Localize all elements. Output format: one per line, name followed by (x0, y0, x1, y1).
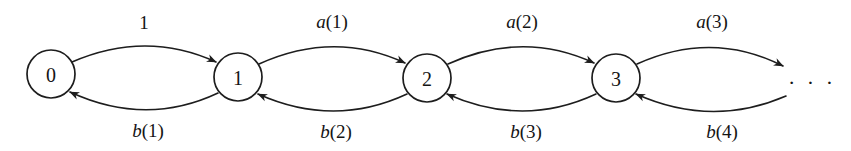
edge-3-to-2-path (447, 94, 596, 111)
edge-3-to-next-path (637, 47, 783, 66)
edge-1-to-2-path (259, 47, 405, 64)
state-node-0[interactable]: 0 (27, 50, 75, 98)
edge-label-3-to-2-rest: (3) (520, 121, 542, 143)
edge-2-to-1-path (258, 94, 407, 111)
state-node-3-label: 3 (611, 68, 621, 90)
diagram-canvas: 0 1 2 3 · · · 1 b(1) a(1) b(2) (0, 0, 851, 151)
edge-label-1-to-0-var: b (132, 120, 142, 141)
edge-label-1-to-2-var: a (316, 11, 326, 32)
edge-label-3-to-next-var: a (696, 11, 706, 32)
edge-label-next-to-3: b(4) (706, 121, 738, 143)
state-node-1[interactable]: 1 (214, 53, 262, 101)
edge-2-to-3-path (448, 47, 594, 64)
edge-label-2-to-3: a(2) (506, 11, 538, 33)
edge-label-3-to-next: a(3) (696, 11, 728, 33)
edge-0-to-1-path (72, 46, 216, 62)
edge-label-0-to-1-rest: 1 (139, 12, 149, 33)
edge-label-2-to-1: b(2) (320, 121, 352, 143)
edge-label-2-to-3-rest: (2) (516, 11, 538, 33)
edge-label-next-to-3-rest: (4) (716, 121, 738, 143)
edge-label-3-to-2-var: b (510, 121, 520, 142)
state-node-1-label: 1 (233, 67, 243, 89)
state-node-0-label: 0 (46, 64, 56, 86)
state-node-2[interactable]: 2 (403, 54, 451, 102)
edge-label-2-to-1-var: b (320, 121, 330, 142)
state-node-2-label: 2 (422, 68, 432, 90)
edge-label-1-to-2: a(1) (316, 11, 348, 33)
state-node-3[interactable]: 3 (592, 54, 640, 102)
edge-next-to-3-path (636, 94, 786, 112)
continuation-ellipsis: · · · (788, 70, 836, 95)
edge-label-0-to-1: 1 (139, 12, 149, 33)
edge-1-to-0-path (70, 92, 218, 110)
edge-label-2-to-1-rest: (2) (330, 121, 352, 143)
edge-label-1-to-0-rest: (1) (142, 120, 164, 142)
edge-label-3-to-next-rest: (3) (706, 11, 728, 33)
state-transition-diagram: 0 1 2 3 · · · 1 b(1) a(1) b(2) (0, 0, 851, 151)
edge-label-2-to-3-var: a (506, 11, 516, 32)
edge-label-3-to-2: b(3) (510, 121, 542, 143)
edge-label-1-to-2-rest: (1) (326, 11, 348, 33)
edge-label-next-to-3-var: b (706, 121, 716, 142)
edge-label-1-to-0: b(1) (132, 120, 164, 142)
